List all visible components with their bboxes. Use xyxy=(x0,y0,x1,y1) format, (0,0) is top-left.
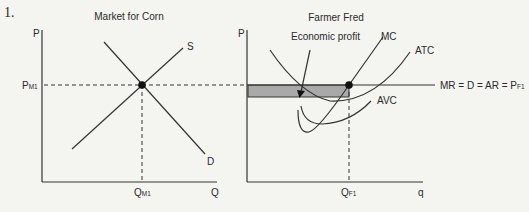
demand-label: D xyxy=(207,156,214,167)
market-for-corn-chart: Market for Corn P Q S D PM1 QM1 xyxy=(22,11,247,198)
avc-label: AVC xyxy=(377,95,397,106)
left-x-axis-label: Q xyxy=(211,187,219,198)
avc-curve xyxy=(301,101,371,124)
firm-quantity-label: QF1 xyxy=(341,187,357,198)
right-x-axis-label: q xyxy=(418,187,424,198)
marginal-revenue-label: MR = D = AR = PF1 xyxy=(440,80,525,91)
economics-diagram: 1. Market for Corn P Q S D PM1 QM1 xyxy=(0,0,529,212)
supply-label: S xyxy=(187,41,194,52)
atc-label: ATC xyxy=(415,45,434,56)
market-price-label: PM1 xyxy=(22,80,38,91)
left-y-axis-label: P xyxy=(33,28,40,39)
market-quantity-label: QM1 xyxy=(134,187,151,198)
right-y-axis-label: P xyxy=(238,28,245,39)
problem-number: 1. xyxy=(4,5,15,20)
demand-curve xyxy=(104,42,205,154)
firm-equilibrium-dot xyxy=(345,81,353,89)
left-chart-title: Market for Corn xyxy=(94,11,163,22)
mc-label: MC xyxy=(381,31,397,42)
diagram-canvas: 1. Market for Corn P Q S D PM1 QM1 xyxy=(0,0,529,212)
farmer-fred-chart: Farmer Fred P q MR = D = AR = PF1 ATC AV… xyxy=(238,12,525,198)
right-chart-title: Farmer Fred xyxy=(308,12,364,23)
market-equilibrium-dot xyxy=(138,81,146,89)
economic-profit-label: Economic profit xyxy=(291,31,360,42)
supply-curve xyxy=(72,48,183,149)
